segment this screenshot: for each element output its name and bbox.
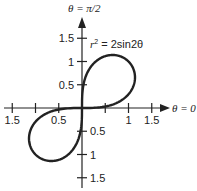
y-tick-label: 1.5 bbox=[90, 172, 105, 184]
x-axis-arrowhead bbox=[160, 104, 170, 112]
polar-axis-label: θ = 0 bbox=[172, 102, 196, 114]
equation-label: r2 = 2sin2θ bbox=[90, 38, 143, 50]
y-tick-label: 0.5 bbox=[90, 125, 105, 137]
y-tick-label: 1.5 bbox=[59, 32, 74, 44]
y-tick-label: 1 bbox=[90, 149, 96, 161]
y-axis-arrowhead bbox=[78, 17, 86, 28]
x-tick-label: 1.5 bbox=[5, 114, 20, 126]
vertical-axis-label: θ = π/2 bbox=[68, 2, 101, 14]
y-tick-label: 0.5 bbox=[59, 79, 74, 91]
x-tick-label: 1.5 bbox=[144, 114, 159, 126]
axes bbox=[4, 17, 170, 188]
x-tick-label: 0.5 bbox=[51, 114, 66, 126]
equation-rest: = 2sin2θ bbox=[98, 38, 143, 50]
x-tick-label: 1 bbox=[125, 114, 131, 126]
polar-chart: 1.50.511.51.510.50.511.5 θ = π/2 θ = 0 r… bbox=[0, 0, 197, 191]
y-tick-label: 1 bbox=[68, 56, 74, 68]
